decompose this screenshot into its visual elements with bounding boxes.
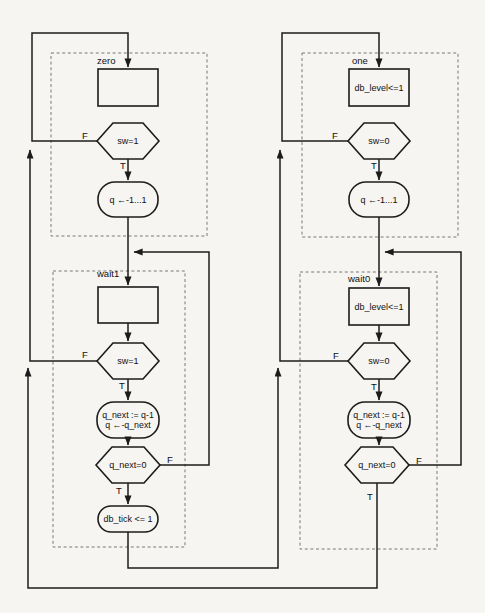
branch-label-zero-true: T	[117, 160, 129, 171]
action-text-wait1-decr: q_next := q-1 q ←-q_next	[97, 402, 159, 438]
branch-label-zero-false: F	[79, 130, 91, 141]
state-box-wait1	[98, 287, 158, 323]
branch-label-wait1-sw-true: T	[116, 380, 128, 391]
branch-label-wait1-qnext-false: F	[164, 454, 176, 465]
wire-wait0-true-to-zero	[28, 368, 377, 588]
decision-text-wait0-sw: sw=0	[348, 343, 410, 379]
branch-label-one-false: F	[329, 130, 341, 141]
action-text-wait1-decr-line2: q ←-q_next	[105, 420, 150, 431]
state-label-one: one	[352, 55, 368, 66]
decision-text-one-sw: sw=0	[348, 123, 410, 159]
asm-chart-diagram: zero one wait1 wait0 db_level<=1 db_leve…	[0, 0, 485, 613]
diagram-lines-layer	[0, 0, 485, 613]
decision-text-zero-sw: sw=1	[97, 123, 159, 159]
wire-wait0-false-to-one	[280, 150, 348, 361]
action-text-zero-load: q ←-1...1	[98, 182, 158, 217]
decision-text-wait1-qnext: q_next=0	[96, 447, 160, 483]
state-label-zero: zero	[97, 55, 115, 66]
state-op-wait0: db_level<=1	[349, 288, 409, 325]
state-op-one: db_level<=1	[349, 69, 409, 106]
branch-label-one-true: T	[368, 160, 380, 171]
decision-text-wait0-qnext: q_next=0	[345, 447, 409, 483]
state-box-zero	[98, 69, 158, 106]
state-label-wait0: wait0	[348, 273, 370, 284]
branch-label-wait0-qnext-true: T	[364, 491, 376, 502]
action-text-wait0-decr: q_next := q-1 q ←-q_next	[348, 402, 410, 438]
state-label-wait1: wait1	[97, 268, 119, 279]
action-text-one-load: q ←-1...1	[349, 182, 409, 217]
branch-label-wait1-qnext-true: T	[113, 485, 125, 496]
action-text-wait1-decr-line1: q_next := q-1	[102, 410, 154, 421]
branch-label-wait1-sw-false: F	[79, 349, 91, 360]
branch-label-wait0-sw-true: T	[368, 381, 380, 392]
decision-text-wait1-sw: sw=1	[97, 343, 159, 379]
branch-label-wait0-sw-false: F	[330, 350, 342, 361]
branch-label-wait0-qnext-false: F	[413, 455, 425, 466]
wire-wait1-false-to-zero	[30, 150, 97, 361]
action-text-wait0-decr-line1: q_next := q-1	[353, 410, 405, 421]
action-text-wait1-dbtick: db_tick <= 1	[98, 506, 158, 532]
action-text-wait0-decr-line2: q ←-q_next	[356, 420, 401, 431]
